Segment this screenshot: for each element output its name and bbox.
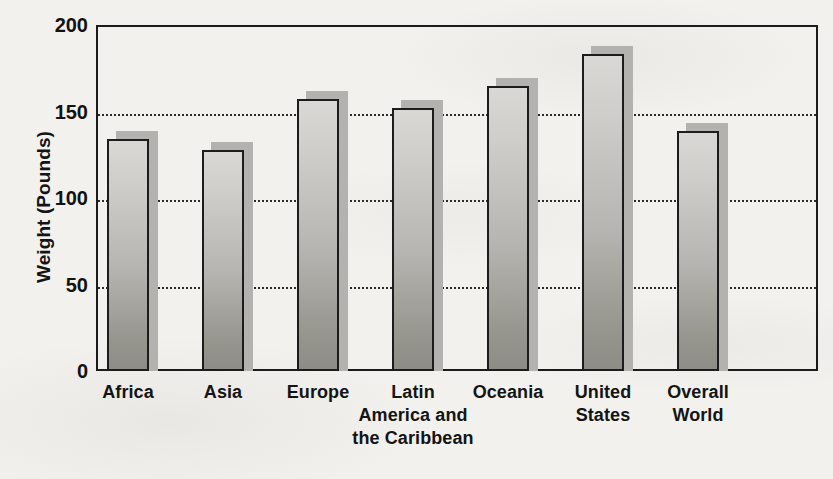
bar-body [202,150,244,371]
x-label-overall-world: OverallWorld [608,381,788,427]
x-label-line: America and [323,404,503,427]
bar-body [297,99,339,371]
bar-body [107,139,149,371]
y-tick-label-0: 0 [0,360,88,383]
x-label-line: the Caribbean [323,427,503,450]
bar-body [392,108,434,371]
bar-body [487,86,529,371]
y-tick-label-200: 200 [0,14,88,37]
x-label-line: World [608,404,788,427]
x-label-line: Overall [608,381,788,404]
y-tick-label-100: 100 [0,187,88,210]
y-tick-label-150: 150 [0,100,88,123]
bar-body [582,54,624,371]
gridline-150 [98,114,816,116]
bar-chart: Weight (Pounds) 050100150200 AfricaAsiaE… [0,0,833,479]
bar-body [677,131,719,371]
y-tick-label-50: 50 [0,273,88,296]
